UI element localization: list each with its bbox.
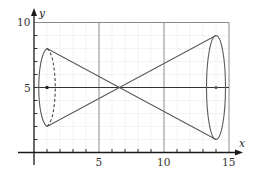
x-tick-label-5: 5: [96, 156, 103, 168]
y-tick-label-10: 10: [17, 16, 30, 28]
y-tick-label-5: 5: [24, 82, 31, 94]
x-tick-label-10: 10: [157, 156, 170, 168]
axes: [18, 8, 243, 165]
x-axis-label: x: [239, 137, 245, 149]
right-center-dot: [214, 86, 217, 89]
x-axis-arrow-icon: [235, 150, 243, 156]
x-tick-label-15: 15: [222, 156, 235, 168]
cone-diagram: y x 5 10 15 5 10: [0, 0, 259, 176]
cone-line-descending: [47, 49, 216, 140]
y-axis-label: y: [38, 7, 46, 19]
y-axis-arrow-icon: [31, 8, 37, 16]
left-center-dot: [45, 86, 49, 90]
cone-line-ascending: [47, 36, 216, 127]
